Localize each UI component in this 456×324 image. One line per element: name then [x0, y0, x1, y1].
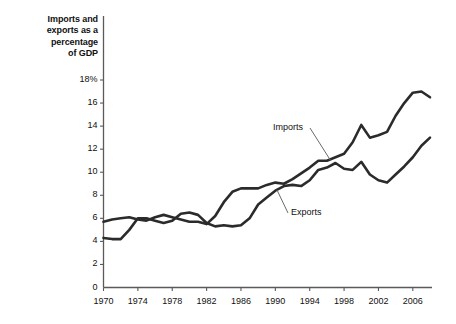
y-tick-label: 14: [68, 120, 98, 130]
x-tick-label: 2006: [393, 296, 433, 306]
series-label-exports: Exports: [291, 207, 322, 217]
axes-group: [104, 16, 433, 288]
chart-plot-area: [0, 0, 456, 324]
y-tick-label: 2: [68, 258, 98, 268]
tick-marks-group: [100, 80, 413, 291]
y-tick-label: 0: [68, 282, 98, 292]
series-label-imports: Imports: [273, 122, 303, 132]
y-tick-label: 12: [68, 143, 98, 153]
y-tick-label: 8: [68, 189, 98, 199]
y-tick-label: 18%: [68, 74, 98, 84]
y-tick-label: 6: [68, 212, 98, 222]
chart-container: Imports and exports as a percentage of G…: [0, 0, 456, 324]
series-line-exports: [104, 138, 431, 239]
y-tick-label: 10: [68, 166, 98, 176]
y-tick-label: 4: [68, 235, 98, 245]
series-line-imports: [104, 92, 431, 225]
y-tick-label: 16: [68, 97, 98, 107]
data-series-group: [104, 92, 431, 240]
